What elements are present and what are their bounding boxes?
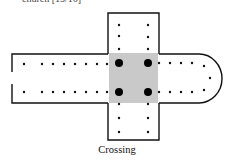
caption-text: Crossing <box>98 144 135 155</box>
church-plan-diagram <box>0 0 228 163</box>
diagram-caption: Crossing <box>0 144 228 155</box>
